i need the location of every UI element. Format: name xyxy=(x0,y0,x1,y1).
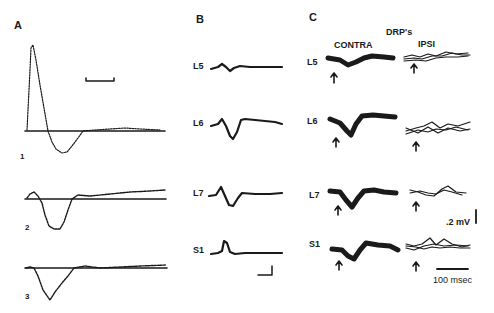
a-trace-1 xyxy=(25,45,165,153)
b-scale-bar xyxy=(258,266,272,275)
figure-traces xyxy=(0,0,494,313)
c-contra-traces xyxy=(328,56,398,259)
c-ipsi-traces xyxy=(404,52,470,250)
a-trace-3 xyxy=(25,265,167,300)
b-traces xyxy=(209,64,282,254)
a-trace-2 xyxy=(25,190,166,229)
stimulus-arrows xyxy=(331,64,419,271)
a-scale-bar xyxy=(86,78,114,81)
